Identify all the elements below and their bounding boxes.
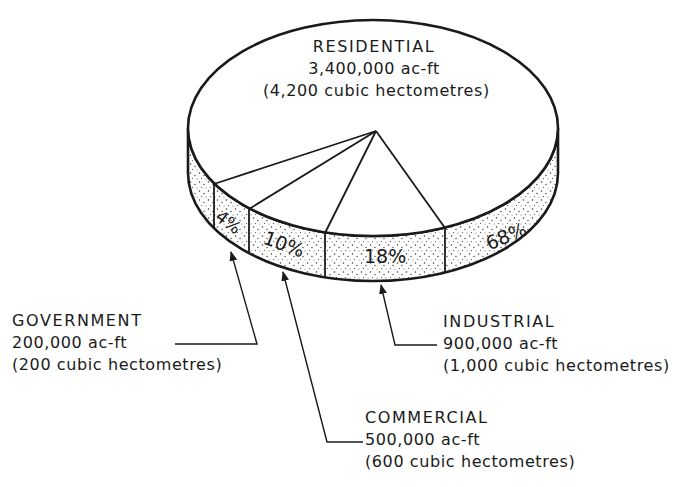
label-industrial-title: INDUSTRIAL [443,311,670,333]
label-commercial-title: COMMERCIAL [365,407,575,429]
label-government-value: 200,000 ac-ft [12,332,222,354]
label-industrial: INDUSTRIAL 900,000 ac-ft (1,000 cubic he… [443,311,670,377]
label-government-title: GOVERNMENT [12,310,222,332]
label-industrial-value: 900,000 ac-ft [443,333,670,355]
label-residential-metric: (4,200 cubic hectometres) [263,80,485,102]
label-industrial-metric: (1,000 cubic hectometres) [443,355,670,377]
label-commercial-value: 500,000 ac-ft [365,429,575,451]
leader-commercial [283,272,363,442]
label-government: GOVERNMENT 200,000 ac-ft (200 cubic hect… [12,310,222,376]
label-residential-value: 3,400,000 ac-ft [283,58,465,80]
pct-industrial: 18% [364,245,406,267]
label-commercial-metric: (600 cubic hectometres) [365,451,575,473]
label-government-metric: (200 cubic hectometres) [12,354,222,376]
label-residential-title: RESIDENTIAL [283,36,465,58]
label-residential: RESIDENTIAL 3,400,000 ac-ft (4,200 cubic… [283,36,465,102]
label-commercial: COMMERCIAL 500,000 ac-ft (600 cubic hect… [365,407,575,473]
leader-industrial [381,285,437,345]
